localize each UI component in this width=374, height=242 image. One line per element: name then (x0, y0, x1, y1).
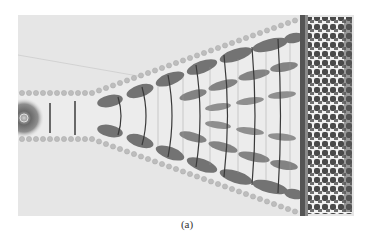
boundary-bar (300, 15, 305, 216)
field-plot (18, 15, 354, 216)
figure-caption: (a) (0, 218, 374, 230)
simulation-figure (18, 15, 354, 216)
